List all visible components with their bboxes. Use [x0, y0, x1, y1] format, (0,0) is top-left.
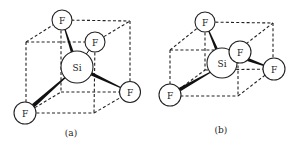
- fluorine-atom: F: [229, 41, 251, 63]
- atom-symbol: Si: [217, 59, 226, 69]
- atom-symbol: F: [237, 48, 243, 58]
- atom-symbol: F: [202, 18, 208, 28]
- atom-symbol: F: [271, 65, 277, 75]
- panel-label-b: (b): [215, 125, 228, 135]
- atoms-a: FSiFFF: [14, 10, 141, 124]
- atom-symbol: F: [127, 88, 133, 98]
- fluorine-atom: F: [263, 58, 285, 80]
- figure-canvas: FSiFFF (a) FSiFFF (b): [0, 0, 297, 148]
- fluorine-atom: F: [14, 102, 36, 124]
- fluorine-atom: F: [52, 10, 72, 30]
- atom-symbol: F: [59, 16, 65, 26]
- atom-symbol: Si: [72, 63, 81, 73]
- atom-symbol: F: [22, 109, 28, 119]
- panel-b: FSiFFF (b): [159, 12, 285, 135]
- fluorine-atom: F: [195, 12, 215, 32]
- cube-edge: [94, 42, 95, 113]
- atom-symbol: F: [167, 91, 173, 101]
- fluorine-atom: F: [120, 82, 141, 103]
- silicon-atom: Si: [61, 51, 93, 83]
- atom-symbol: F: [92, 38, 98, 48]
- sif4-tetrahedral-figure: FSiFFF (a) FSiFFF (b): [0, 0, 297, 148]
- panel-label-a: (a): [65, 128, 77, 138]
- atoms-b: FSiFFF: [159, 12, 285, 106]
- fluorine-atom: F: [159, 84, 181, 106]
- panel-a: FSiFFF (a): [14, 10, 141, 138]
- fluorine-atom: F: [85, 32, 105, 52]
